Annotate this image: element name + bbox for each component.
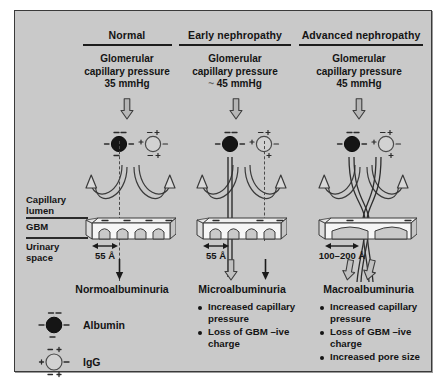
igg-molecule-advanced (369, 127, 403, 161)
pressure-arrow-advanced (352, 98, 366, 120)
outcome-block-arrow-early (224, 259, 238, 281)
pressure-value: 45 mmHg (217, 78, 262, 89)
pressure-block-advanced: Glomerular capillary pressure 45 mmHg (295, 53, 423, 91)
list-item: Increased capillary pressure (319, 301, 424, 325)
outcome-thin-arrow-early (261, 259, 270, 281)
pressure-line-2: capillary pressure (295, 66, 423, 79)
row-rule-below-gbm (26, 237, 88, 239)
pressure-block-early: Glomerular capillary pressure ~ 45 mmHg (173, 53, 297, 91)
nephropathy-diagram-figure: Normal Early nephropathy Advanced nephro… (14, 10, 432, 372)
urinary-space-line-1: Urinary (26, 241, 59, 252)
legend-label-albumin: Albumin (83, 319, 125, 331)
pressure-value: 45 mmHg (295, 78, 423, 91)
row-label-urinary-space: Urinary space (26, 241, 59, 263)
bounce-arrow-igg-normal (130, 163, 186, 211)
legend-igg-icon (37, 345, 71, 379)
approximately-symbol: ~ (208, 78, 214, 89)
bullet-list-early: Increased capillary pressure Loss of GBM… (197, 301, 299, 351)
capillary-lumen-line-1: Capillary (26, 194, 66, 205)
column-title-advanced-nephropathy: Advanced nephropathy (291, 29, 431, 41)
outcome-label-normoalbuminuria: Normoalbuminuria (67, 283, 177, 295)
capillary-lumen-line-2: lumen (26, 205, 66, 216)
outcome-label-microalbuminuria: Microalbuminuria (187, 283, 297, 295)
urinary-space-line-2: space (26, 252, 59, 263)
legend-albumin-icon (37, 308, 71, 342)
bounce-arrow-igg-early (241, 163, 297, 211)
pressure-arrow-normal (120, 98, 134, 120)
list-item: Increased capillary pressure (197, 301, 299, 325)
pressure-line-1: Glomerular (173, 53, 297, 66)
list-item: Loss of GBM –ive charge (319, 326, 424, 350)
column-title-rule-normal (83, 44, 172, 46)
bounce-arrow-albumin-normal (75, 163, 131, 211)
outcome-label-macroalbuminuria: Macroalbuminuria (311, 283, 426, 295)
list-item: Increased pore size (319, 351, 424, 363)
outcome-arrow-normal (115, 259, 124, 281)
list-item: Loss of GBM –ive charge (197, 326, 299, 350)
column-title-early-nephropathy: Early nephropathy (170, 29, 300, 41)
pressure-line-1: Glomerular (295, 53, 423, 66)
pore-size-normal: 55 Å (75, 250, 135, 261)
pressure-arrow-early (229, 98, 243, 120)
bullet-list-advanced: Increased capillary pressure Loss of GBM… (319, 301, 424, 364)
albumin-molecule-early (213, 127, 247, 161)
row-rule-above-gbm (26, 217, 88, 219)
legend-label-igg: IgG (83, 356, 101, 368)
pressure-value-row: ~ 45 mmHg (173, 78, 297, 91)
column-title-rule-advanced (299, 44, 423, 46)
pressure-value: 35 mmHg (65, 78, 189, 91)
pressure-line-2: capillary pressure (173, 66, 297, 79)
column-title-rule-early (179, 44, 291, 46)
pressure-block-normal: Glomerular capillary pressure 35 mmHg (65, 53, 189, 91)
pressure-line-2: capillary pressure (65, 66, 189, 79)
igg-molecule-normal (136, 127, 170, 161)
row-label-capillary-lumen: Capillary lumen (26, 194, 66, 216)
albumin-molecule-advanced (335, 127, 369, 161)
column-title-normal: Normal (77, 29, 177, 41)
pressure-line-1: Glomerular (65, 53, 189, 66)
row-label-gbm: GBM (26, 221, 48, 232)
